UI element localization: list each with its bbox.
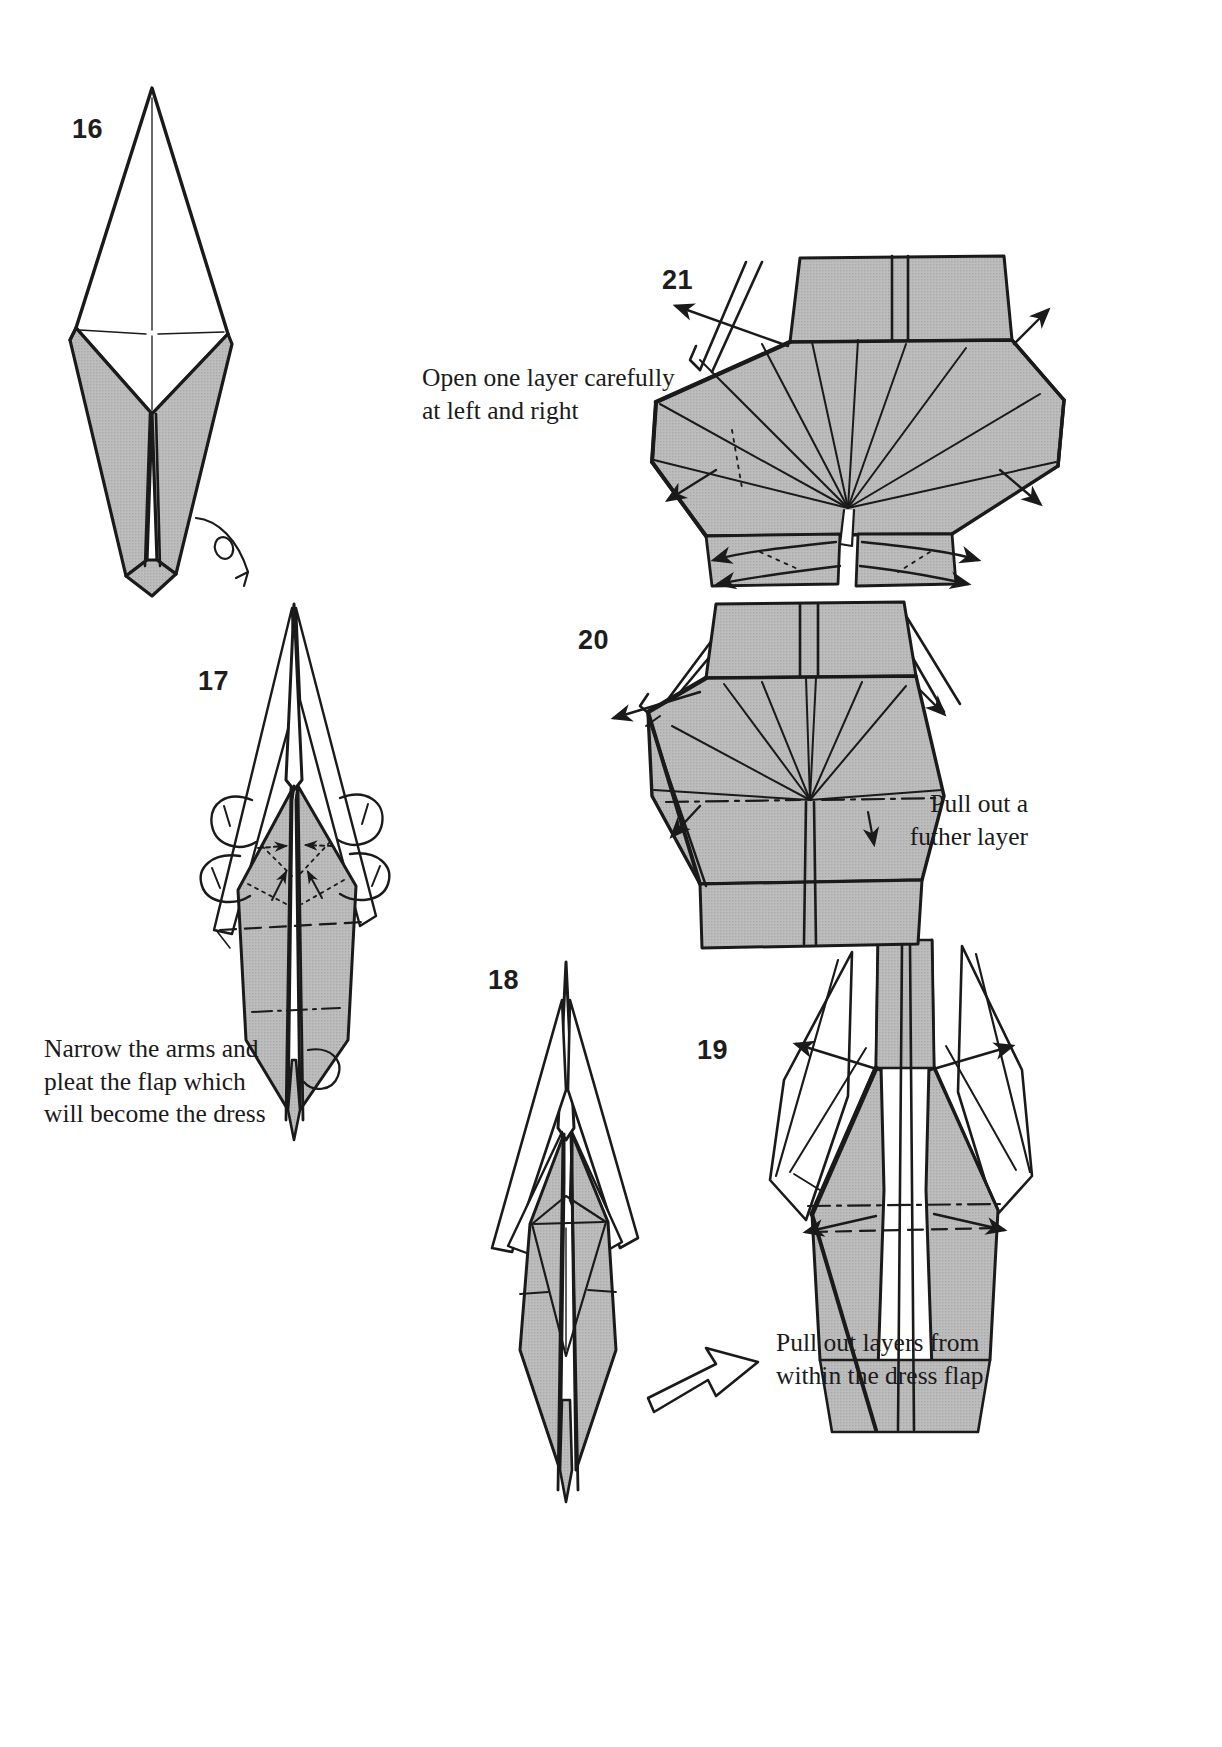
caption-pull-out-layers: Pull out layers from within the dress fl… <box>776 1327 1036 1392</box>
figure-20 <box>614 602 960 948</box>
figure-18 <box>492 962 638 1502</box>
caption-narrow-arms: Narrow the arms and pleat the flap which… <box>44 1033 304 1131</box>
step-number-20: 20 <box>578 625 609 656</box>
figure-21 <box>652 256 1064 586</box>
step-number-21: 21 <box>662 265 693 296</box>
caption-pull-out-further-layer: Pull out a futher layer <box>860 788 1028 853</box>
origami-diagram-artwork <box>0 0 1222 1747</box>
step-number-17: 17 <box>198 666 229 697</box>
caption-open-one-layer: Open one layer carefully at left and rig… <box>422 362 692 427</box>
diagram-page: 16 17 18 19 20 21 Open one layer careful… <box>0 0 1222 1747</box>
turn-over-arrow-16-to-17 <box>196 518 248 586</box>
step-number-16: 16 <box>72 114 103 145</box>
step-number-18: 18 <box>488 965 519 996</box>
step-number-19: 19 <box>697 1035 728 1066</box>
open-arrow-18-to-19 <box>648 1348 758 1412</box>
